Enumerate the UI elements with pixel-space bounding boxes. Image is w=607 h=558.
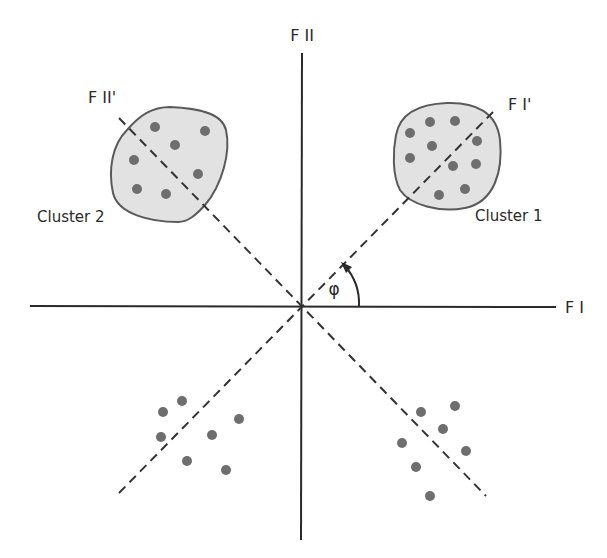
cluster-2-point xyxy=(193,169,203,179)
group-lower-left-point xyxy=(207,430,217,440)
cluster-2-point xyxy=(170,140,180,150)
cluster-1-point xyxy=(405,128,415,138)
cluster-1-point xyxy=(448,161,458,171)
group-lower-right-point xyxy=(397,438,407,448)
cluster-1-point xyxy=(405,153,415,163)
cluster-2-point xyxy=(129,155,139,165)
angle-label: φ xyxy=(328,279,339,299)
group-lower-left-point xyxy=(177,396,187,406)
group-lower-right-point xyxy=(450,401,460,411)
cluster-1-point xyxy=(471,159,481,169)
group-lower-right-point xyxy=(411,462,421,472)
cluster-1-label: Cluster 1 xyxy=(475,207,543,225)
group-lower-left-point xyxy=(156,432,166,442)
cluster-2-point xyxy=(200,126,210,136)
axis-f1 xyxy=(30,306,556,307)
cluster-1-point xyxy=(427,141,437,151)
cluster-2-label: Cluster 2 xyxy=(37,208,105,226)
cluster-1-point xyxy=(450,116,460,126)
cluster-2-point xyxy=(161,189,171,199)
axis-f1-label: F I xyxy=(565,298,584,317)
rotated-axes-diagram: φ F I F II F I' F II' Cluster 1 Cluster … xyxy=(0,0,607,558)
cluster-1-point xyxy=(425,117,435,127)
cluster-2-point xyxy=(150,122,160,132)
axis-f1-rotated-label: F I' xyxy=(508,95,531,114)
group-lower-right-point xyxy=(425,491,435,501)
group-lower-right-point xyxy=(416,407,426,417)
cluster-1-point xyxy=(472,136,482,146)
group-lower-left-point xyxy=(234,414,244,424)
cluster-1-point xyxy=(434,190,444,200)
cluster-1-point xyxy=(460,184,470,194)
group-lower-right-point xyxy=(438,424,448,434)
group-lower-left-point xyxy=(158,407,168,417)
axis-f2-label: F II xyxy=(290,26,314,45)
axis-f2 xyxy=(301,53,302,540)
cluster-2-outline xyxy=(111,107,227,222)
group-lower-left-point xyxy=(221,465,231,475)
cluster-2-point xyxy=(132,184,142,194)
group-lower-right-point xyxy=(461,446,471,456)
axis-f2-rotated-label: F II' xyxy=(88,88,116,107)
angle-arrowhead-icon xyxy=(341,262,352,273)
group-lower-left-point xyxy=(182,456,192,466)
